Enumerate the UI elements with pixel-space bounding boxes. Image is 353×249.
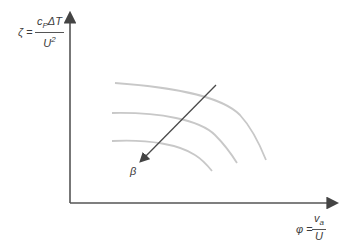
beta-arrow xyxy=(141,85,216,161)
curve-2 xyxy=(112,113,237,163)
y-axis-numerator: cPΔT xyxy=(35,15,64,32)
x-axis-numerator: va xyxy=(312,212,326,229)
zeta-symbol: ζ xyxy=(18,26,23,38)
y-axis-denominator: U2 xyxy=(43,33,55,50)
beta-label: β xyxy=(130,165,136,177)
curve-3 xyxy=(112,141,212,171)
y-axis-symbol: ζ = xyxy=(18,26,33,38)
phi-symbol: φ xyxy=(296,223,303,235)
x-axis-fraction: va U xyxy=(312,212,326,243)
x-axis-denominator: U xyxy=(315,230,323,243)
y-axis-fraction: cPΔT U2 xyxy=(35,15,64,50)
x-axis-symbol: φ = xyxy=(296,223,313,235)
equals-sign: = xyxy=(26,26,32,38)
